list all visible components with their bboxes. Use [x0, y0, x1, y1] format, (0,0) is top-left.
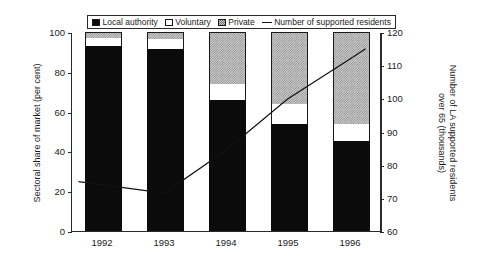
left-tick-label: 40 — [54, 147, 65, 157]
x-tick-label-1992: 1992 — [74, 238, 130, 248]
supported-residents-line — [72, 33, 380, 231]
x-tick-label-1996: 1996 — [322, 238, 378, 248]
right-tick-label: 70 — [387, 194, 398, 204]
legend-item-supported-residents: Number of supported residents — [262, 18, 391, 27]
solid-black-square-icon — [92, 19, 100, 26]
legend-item-local-authority: Local authority — [92, 18, 158, 27]
legend-label-local-authority: Local authority — [103, 18, 158, 27]
right-axis-spine — [381, 33, 382, 232]
left-tick-mark — [68, 232, 72, 233]
left-tick-label: 80 — [54, 68, 65, 78]
left-axis-title: Sectoral share of market (per cent) — [32, 63, 42, 202]
x-tick-label-1995: 1995 — [260, 238, 316, 248]
line-segment-icon — [262, 22, 272, 23]
left-tick-label: 60 — [54, 108, 65, 118]
right-tick-label: 80 — [387, 161, 398, 171]
white-square-icon — [165, 19, 173, 26]
right-axis-title: Number of LA supported residents over 65… — [436, 58, 458, 208]
right-tick-label: 90 — [387, 128, 398, 138]
right-tick-label: 110 — [387, 61, 402, 71]
right-tick-mark — [380, 232, 384, 233]
legend-label-supported-residents: Number of supported residents — [274, 18, 391, 27]
left-tick-label: 100 — [49, 28, 65, 38]
legend-label-private: Private — [228, 18, 254, 27]
legend-label-voluntary: Voluntary — [175, 18, 210, 27]
right-tick-label: 60 — [387, 227, 398, 237]
chart-legend: Local authority Voluntary Private Number… — [87, 15, 396, 29]
legend-item-private: Private — [218, 18, 255, 27]
x-tick-label-1993: 1993 — [136, 238, 192, 248]
legend-item-voluntary: Voluntary — [165, 18, 211, 27]
right-tick-label: 100 — [387, 94, 403, 104]
plot-area: 020406080100 60708090100110120 — [71, 33, 381, 232]
x-tick-label-1994: 1994 — [198, 238, 254, 248]
hatched-square-icon — [218, 19, 226, 26]
left-tick-label: 0 — [60, 227, 65, 237]
chart-figure: Local authority Voluntary Private Number… — [0, 0, 502, 269]
left-tick-label: 20 — [54, 187, 65, 197]
right-tick-label: 120 — [387, 28, 403, 38]
